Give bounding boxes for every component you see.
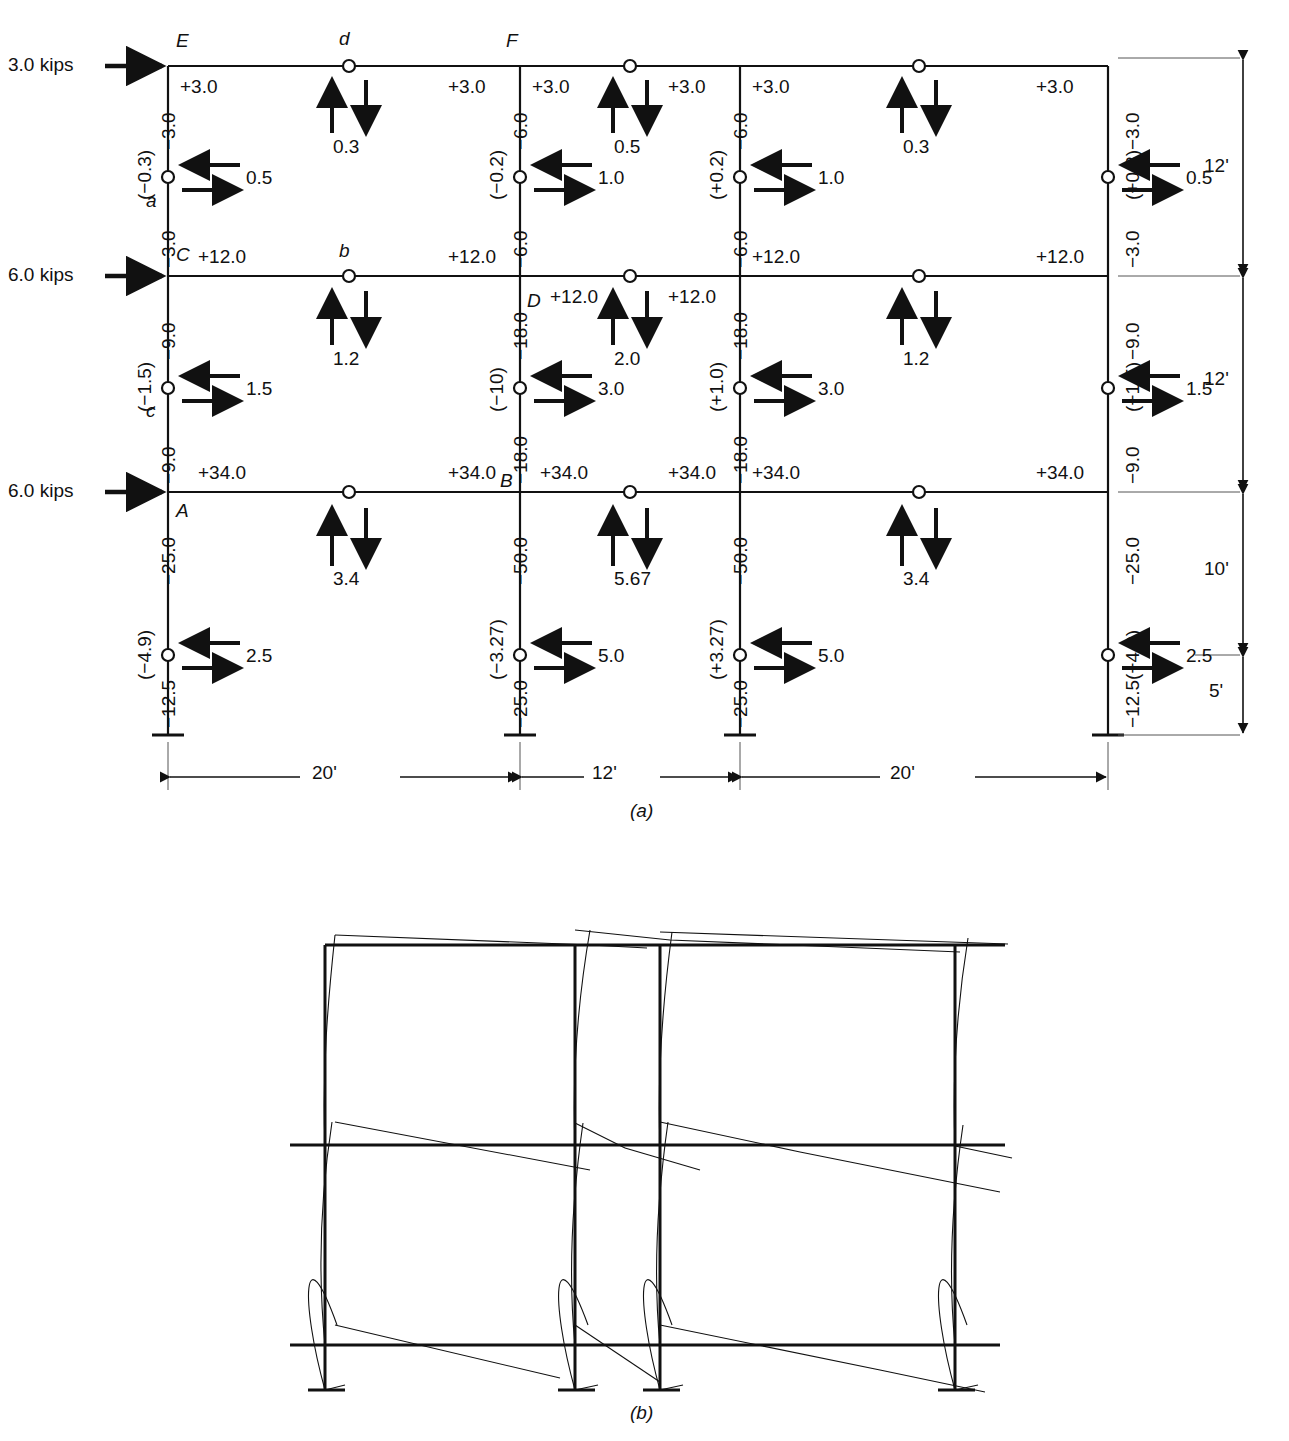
beam-moment-second-1-left: +34.0 [540, 462, 588, 484]
story-dim-1: 12' [1204, 368, 1229, 390]
joint-label-A: A [176, 500, 189, 522]
beam-moment-second-2-right: +34.0 [1036, 462, 1084, 484]
col-axial-story1-3: (+0.3) [1122, 150, 1144, 200]
beam-moment-roof-1-left: +3.0 [532, 76, 570, 98]
col-moment-top-2-1: −50.0 [510, 537, 532, 585]
beam-moment-roof-2-right: +3.0 [1036, 76, 1074, 98]
load-label-second: 6.0 kips [8, 480, 73, 502]
subcaption-b: (b) [630, 1402, 653, 1424]
col-axial-story2-2: (+1.0) [706, 362, 728, 412]
beam-moment-third-1-left: +12.0 [550, 286, 598, 308]
col-shear-story1-0: 0.5 [246, 167, 272, 189]
col-moment-bot-0-1: −6.0 [510, 230, 532, 268]
col-moment-top-1-1: −18.0 [510, 312, 532, 360]
col-moment-top-0-0: −3.0 [158, 112, 180, 150]
beam-moment-third-1-right: +12.0 [668, 286, 716, 308]
joint-label-E: E [176, 30, 189, 52]
col-moment-top-0-3: −3.0 [1122, 112, 1144, 150]
col-shear-story1-2: 1.0 [818, 167, 844, 189]
col-axial-story3-2: (+3.27) [706, 619, 728, 680]
beam-moment-third-2-right: +12.0 [1036, 246, 1084, 268]
col-axial-story1-1: (−0.2) [486, 150, 508, 200]
beam-shear-second-0: 3.4 [333, 568, 359, 590]
beam-moment-roof-2-left: +3.0 [752, 76, 790, 98]
beam-moment-roof-0-right: +3.0 [448, 76, 486, 98]
col-moment-top-0-2: −6.0 [730, 112, 752, 150]
col-shear-story2-2: 3.0 [818, 378, 844, 400]
col-shear-story3-2: 5.0 [818, 645, 844, 667]
subcaption-a: (a) [630, 800, 653, 822]
col-axial-story3-1: (−3.27) [486, 619, 508, 680]
col-moment-bot-2-2: −25.0 [730, 680, 752, 728]
col-shear-story3-0: 2.5 [246, 645, 272, 667]
col-moment-top-1-3: −9.0 [1122, 322, 1144, 360]
col-axial-story2-3: (+1.5) [1122, 362, 1144, 412]
text-labels-layer: 3.0 kips6.0 kips6.0 kipsEFCDABdbac+3.0+3… [0, 0, 1289, 1441]
beam-moment-second-2-left: +34.0 [752, 462, 800, 484]
col-axial-story2-0: (−1.5) [134, 362, 156, 412]
load-label-roof: 3.0 kips [8, 54, 73, 76]
col-moment-top-2-3: −25.0 [1122, 537, 1144, 585]
span-dim-0: 20' [312, 762, 337, 784]
beam-moment-third-0-right: +12.0 [448, 246, 496, 268]
col-moment-bot-0-3: −3.0 [1122, 230, 1144, 268]
figure-root: 3.0 kips6.0 kips6.0 kipsEFCDABdbac+3.0+3… [0, 0, 1289, 1441]
col-axial-story1-0: (−0.3) [134, 150, 156, 200]
col-moment-bot-2-1: −25.0 [510, 680, 532, 728]
beam-shear-second-1: 5.67 [614, 568, 651, 590]
joint-label-b: b [339, 240, 350, 262]
col-shear-story2-0: 1.5 [246, 378, 272, 400]
col-axial-story2-1: (−10) [486, 367, 508, 412]
story-dim-3: 5' [1209, 680, 1223, 702]
col-moment-bot-2-0: −12.5 [158, 680, 180, 728]
col-moment-top-1-0: −9.0 [158, 322, 180, 360]
col-moment-top-0-1: −6.0 [510, 112, 532, 150]
col-moment-bot-1-3: −9.0 [1122, 446, 1144, 484]
col-moment-bot-1-0: −9.0 [158, 446, 180, 484]
story-dim-0: 12' [1204, 155, 1229, 177]
col-shear-story3-1: 5.0 [598, 645, 624, 667]
beam-shear-third-1: 2.0 [614, 348, 640, 370]
load-label-third: 6.0 kips [8, 264, 73, 286]
beam-shear-third-0: 1.2 [333, 348, 359, 370]
beam-moment-second-0-left: +34.0 [198, 462, 246, 484]
col-shear-story2-1: 3.0 [598, 378, 624, 400]
beam-shear-second-2: 3.4 [903, 568, 929, 590]
beam-moment-second-1-right: +34.0 [668, 462, 716, 484]
span-dim-1: 12' [592, 762, 617, 784]
beam-shear-third-2: 1.2 [903, 348, 929, 370]
beam-moment-third-0-left: +12.0 [198, 246, 246, 268]
span-dim-2: 20' [890, 762, 915, 784]
col-shear-story1-1: 1.0 [598, 167, 624, 189]
col-moment-bot-1-1: −18.0 [510, 436, 532, 484]
col-axial-story1-2: (+0.2) [706, 150, 728, 200]
beam-shear-roof-0: 0.3 [333, 136, 359, 158]
beam-moment-roof-1-right: +3.0 [668, 76, 706, 98]
beam-moment-third-2-left: +12.0 [752, 246, 800, 268]
beam-shear-roof-1: 0.5 [614, 136, 640, 158]
col-moment-bot-0-0: −3.0 [158, 230, 180, 268]
col-axial-story3-3: (+4.9) [1122, 630, 1144, 680]
story-dim-2: 10' [1204, 558, 1229, 580]
joint-label-D: D [527, 290, 541, 312]
col-axial-story3-0: (−4.9) [134, 630, 156, 680]
col-moment-top-2-2: −50.0 [730, 537, 752, 585]
beam-moment-second-0-right: +34.0 [448, 462, 496, 484]
joint-label-F: F [506, 30, 518, 52]
beam-moment-roof-0-left: +3.0 [180, 76, 218, 98]
beam-shear-roof-2: 0.3 [903, 136, 929, 158]
col-moment-top-1-2: −18.0 [730, 312, 752, 360]
col-moment-bot-1-2: −18.0 [730, 436, 752, 484]
col-moment-bot-0-2: −6.0 [730, 230, 752, 268]
col-shear-story3-3: 2.5 [1186, 645, 1212, 667]
joint-label-d: d [339, 28, 350, 50]
col-moment-top-2-0: −25.0 [158, 537, 180, 585]
col-moment-bot-2-3: −12.5 [1122, 680, 1144, 728]
